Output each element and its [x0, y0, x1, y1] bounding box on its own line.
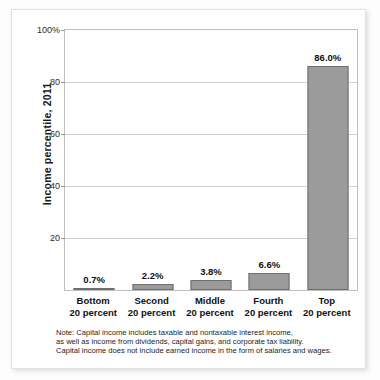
bar-value-label: 3.8% — [200, 266, 222, 277]
x-axis-tick-label: Top20 percent — [298, 295, 356, 318]
x-tick-label-line2: 20 percent — [298, 307, 356, 319]
x-tick-label-line1: Middle — [195, 295, 225, 306]
bar-value-label: 0.7% — [83, 274, 105, 285]
y-axis-tick-label: 20 — [19, 233, 65, 243]
chart-figure: Income percentile, 2011 20406080100% 0.7… — [0, 0, 380, 380]
bar-value-label: 6.6% — [259, 259, 281, 270]
x-tick-label-line2: 20 percent — [122, 307, 180, 319]
x-tick-label-line2: 20 percent — [181, 307, 239, 319]
y-axis-tick-label: 80 — [19, 77, 65, 87]
y-axis-label: Income percentile, 2011 — [41, 0, 53, 294]
x-axis-tick-label: Fourth20 percent — [239, 295, 297, 318]
bar[interactable] — [249, 273, 290, 290]
footnote-line-2: as well as income from dividends, capita… — [56, 337, 356, 346]
x-tick-label-line1: Top — [318, 295, 335, 306]
x-axis-tick-label: Second20 percent — [122, 295, 180, 318]
x-tick-label-line2: 20 percent — [64, 307, 122, 319]
bar-value-label: 86.0% — [314, 52, 341, 63]
bar-slot: 0.7% — [65, 30, 123, 290]
x-tick-label-line1: Second — [134, 295, 168, 306]
footnote-line-3: Capital income does not include earned i… — [56, 346, 356, 355]
chart-footnote: Note: Capital income includes taxable an… — [56, 328, 356, 356]
x-axis-tick-label: Bottom20 percent — [64, 295, 122, 318]
y-axis-tick-label: 100% — [19, 25, 65, 35]
x-tick-label-line1: Bottom — [77, 295, 110, 306]
x-axis-tick-label: Middle20 percent — [181, 295, 239, 318]
bar-slot: 2.2% — [123, 30, 181, 290]
bar-series: 0.7%2.2%3.8%6.6%86.0% — [65, 30, 357, 290]
y-axis-tick-label: 60 — [19, 129, 65, 139]
x-tick-label-line2: 20 percent — [239, 307, 297, 319]
plot-area: Income percentile, 2011 20406080100% 0.7… — [64, 29, 358, 291]
bar-value-label: 2.2% — [142, 270, 164, 281]
bar-slot: 6.6% — [240, 30, 298, 290]
y-axis-tick-label: 40 — [19, 181, 65, 191]
bar[interactable] — [190, 280, 231, 290]
bar-slot: 3.8% — [182, 30, 240, 290]
bar[interactable] — [132, 284, 173, 290]
bar[interactable] — [74, 288, 115, 290]
x-tick-label-line1: Fourth — [253, 295, 283, 306]
footnote-line-1: Note: Capital income includes taxable an… — [56, 328, 356, 337]
bar[interactable] — [307, 66, 348, 290]
bar-slot: 86.0% — [299, 30, 357, 290]
